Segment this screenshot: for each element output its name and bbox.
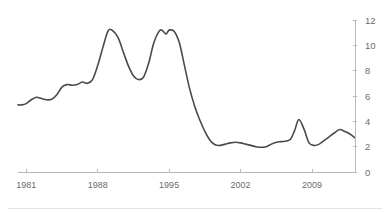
y-tick-label: 0 <box>365 167 370 178</box>
y-tick-label: 6 <box>365 91 370 102</box>
x-axis-ticks <box>26 169 312 173</box>
x-axis-tick-labels: 19811988199520022009 <box>16 180 322 190</box>
x-tick-label: 1981 <box>16 180 36 190</box>
y-tick-label: 12 <box>365 15 376 26</box>
y-axis-tick-labels: 024681012 <box>365 15 376 178</box>
y-tick-label: 10 <box>365 40 376 51</box>
x-tick-label: 1988 <box>88 180 108 190</box>
y-tick-label: 2 <box>365 141 370 152</box>
line-chart: 19811988199520022009 024681012 <box>0 0 390 213</box>
x-tick-label: 1995 <box>159 180 179 190</box>
y-tick-label: 8 <box>365 65 370 76</box>
x-tick-label: 2009 <box>302 180 322 190</box>
x-tick-label: 2002 <box>231 180 251 190</box>
chart-canvas: 19811988199520022009 024681012 <box>0 0 390 213</box>
y-tick-label: 4 <box>365 116 370 127</box>
series-line-1 <box>18 29 355 147</box>
